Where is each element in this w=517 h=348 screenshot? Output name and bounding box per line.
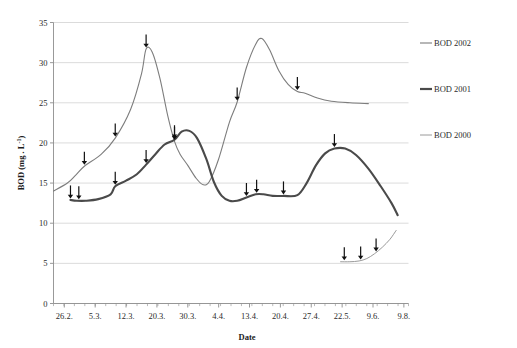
x-tick-label-20.4.: 20.4.	[272, 311, 289, 321]
x-axis-tick-labels-group: 26.2.5.3.12.3.20.3.30.3.4.4.13.4.20.4.27…	[56, 311, 410, 321]
sampling-arrow-bod-2001-6	[254, 180, 259, 193]
x-tick-label-4.4.: 4.4.	[212, 311, 225, 321]
sampling-arrow-bod-2002-2	[143, 34, 148, 47]
sampling-arrow-bod-2000-0	[342, 247, 347, 260]
sampling-arrow-bod-2002-5	[295, 77, 300, 90]
x-tick-label-13.4.: 13.4.	[241, 311, 258, 321]
sampling-arrow-bod-2000-1	[358, 246, 363, 259]
sampling-arrow-bod-2000-2	[373, 238, 378, 251]
sampling-arrow-bod-2002-0	[82, 152, 87, 165]
y-axis-title-main: BOD (mg . L	[16, 143, 26, 190]
x-tick-label-20.3.: 20.3.	[148, 311, 165, 321]
arrow-head	[68, 195, 73, 199]
arrow-head	[358, 256, 363, 260]
arrow-head	[342, 256, 347, 260]
x-tick-label-26.2.: 26.2.	[56, 311, 73, 321]
legend-label: BOD 2000	[434, 130, 471, 140]
arrow-head	[332, 143, 337, 147]
series-line-bod-2000	[341, 230, 397, 261]
chart-canvas: 26.2.5.3.12.3.20.3.30.3.4.4.13.4.20.4.27…	[0, 0, 517, 348]
x-tick-label-22.5.: 22.5.	[334, 311, 351, 321]
legend-item-bod-2001: BOD 2001	[420, 84, 471, 94]
legend-label: BOD 2001	[434, 84, 471, 94]
y-tick-label-30: 30	[39, 58, 48, 68]
y-axis-tick-labels-group: 05101520253035	[39, 18, 48, 309]
sampling-arrow-bod-2001-1	[76, 186, 81, 199]
y-tick-label-15: 15	[39, 178, 48, 188]
arrow-head	[76, 195, 81, 199]
arrow-head	[254, 189, 259, 193]
series-line-bod-2002	[54, 38, 369, 191]
x-axis-title: Date	[239, 332, 256, 342]
x-tick-label-9.6.: 9.6.	[367, 311, 380, 321]
legend: BOD 2002BOD 2001BOD 2000	[420, 38, 471, 140]
x-tick-label-9.8.: 9.8.	[397, 311, 410, 321]
arrow-head	[295, 86, 300, 90]
x-tick-label-5.3.: 5.3.	[89, 311, 102, 321]
y-tick-label-5: 5	[43, 258, 47, 268]
x-tick-label-27.4.: 27.4.	[303, 311, 320, 321]
arrow-head	[281, 191, 286, 195]
x-tick-label-12.3.: 12.3.	[118, 311, 135, 321]
legend-item-bod-2000: BOD 2000	[420, 130, 471, 140]
arrow-head	[234, 97, 239, 101]
y-tick-label-25: 25	[39, 98, 48, 108]
y-tick-label-10: 10	[39, 218, 48, 228]
sampling-arrow-annotations-group	[68, 34, 379, 260]
sampling-arrow-bod-2001-5	[244, 183, 249, 196]
sampling-arrow-bod-2001-8	[332, 134, 337, 147]
x-tick-label-30.3.: 30.3.	[179, 311, 196, 321]
data-series-group	[54, 38, 398, 261]
y-axis-title-text: BOD (mg . L-1)	[16, 136, 26, 191]
y-axis-ticks-group	[50, 23, 54, 304]
y-axis-title: BOD (mg . L-1)	[16, 136, 26, 191]
sampling-arrow-bod-2001-0	[68, 185, 73, 198]
y-tick-label-20: 20	[39, 138, 48, 148]
y-tick-label-0: 0	[43, 299, 47, 309]
arrow-head	[244, 192, 249, 196]
y-axis-title-tail: )	[16, 136, 26, 139]
legend-item-bod-2002: BOD 2002	[420, 38, 471, 48]
legend-label: BOD 2002	[434, 38, 471, 48]
bod-line-chart-figure: 26.2.5.3.12.3.20.3.30.3.4.4.13.4.20.4.27…	[0, 0, 517, 348]
y-tick-label-35: 35	[39, 18, 48, 28]
x-axis-ticks-group	[54, 304, 409, 308]
